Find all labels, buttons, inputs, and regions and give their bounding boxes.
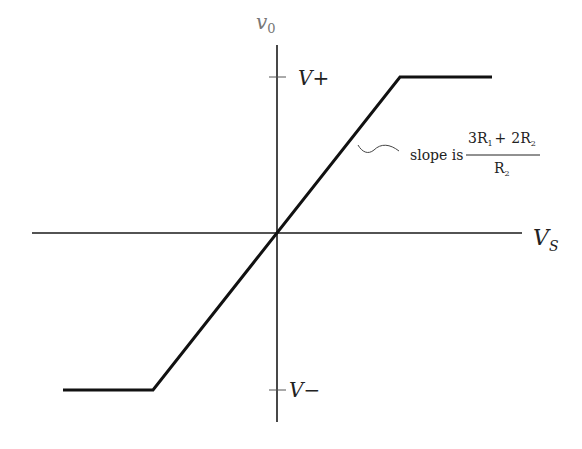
y-axis-label: v0 bbox=[256, 10, 276, 36]
x-axis-label: VS bbox=[533, 225, 558, 254]
fraction-numerator: 3R1+2R2 bbox=[468, 130, 536, 148]
transfer-curve-diagram: v0 V+ V− VS slope is 3R1+2R2 R2 bbox=[0, 0, 582, 449]
slope-annotation-prefix: slope is bbox=[410, 147, 463, 163]
v-plus-label: V+ bbox=[298, 66, 329, 90]
fraction-denominator: R2 bbox=[494, 160, 510, 178]
v-minus-label: V− bbox=[289, 378, 320, 402]
slope-fraction: 3R1+2R2 R2 bbox=[466, 130, 540, 178]
annotation-leader bbox=[358, 145, 399, 152]
